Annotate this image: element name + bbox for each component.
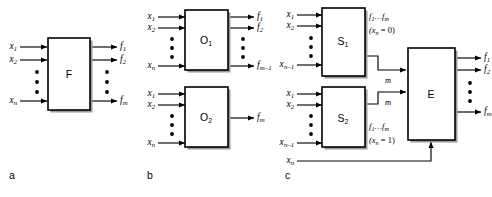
output-label-f2-o1: f2 — [257, 23, 263, 33]
ellipsis-dots — [35, 36, 472, 136]
input-label-x2-o2: x2 — [147, 100, 155, 110]
input-label-x2-a: x2 — [9, 55, 17, 65]
output-label-f2-a: f2 — [120, 55, 126, 65]
bus-label-top: f1…fm — [369, 12, 389, 21]
input-label-x1-o1: x1 — [147, 12, 155, 22]
bus-width-label-bottom: m — [385, 98, 391, 107]
output-label-f1-o1: f1 — [257, 12, 263, 22]
diagram-vector-layer — [0, 0, 492, 197]
input-label-xn-1-s2: xn–1 — [280, 138, 294, 148]
output-label-fm-e: fm — [484, 107, 492, 117]
block-diagram-figure: x1 x2 xn F f1 f2 fm a x1 x2 xn O1 f1 f2 … — [0, 0, 492, 197]
input-label-x1-o2: x1 — [147, 89, 155, 99]
box-label-S2: S2 — [338, 113, 349, 124]
output-label-f1-a: f1 — [120, 42, 126, 52]
input-label-xn-o1: xn — [147, 61, 155, 71]
input-label-x1-s2: x1 — [286, 89, 294, 99]
bus-condition-xn-zero: (xn = 0) — [369, 26, 395, 35]
input-label-x2-s2: x2 — [286, 100, 294, 110]
bus-label-bottom: f1…fm — [369, 122, 389, 131]
input-label-x1-s1: x1 — [286, 10, 294, 20]
input-label-xn-control: xn — [286, 156, 294, 166]
panel-letter-b: b — [147, 170, 153, 181]
input-label-x2-s1: x2 — [286, 21, 294, 31]
panel-letter-c: c — [285, 170, 290, 181]
output-label-f2-e: f2 — [484, 65, 490, 75]
box-shadows — [51, 11, 458, 150]
output-label-fm-1-o1: fm–1 — [257, 61, 271, 71]
box-label-O1: O1 — [200, 35, 212, 46]
input-label-xn-a: xn — [9, 96, 17, 106]
bus-width-label-top: m — [385, 76, 391, 85]
output-label-f1-e: f1 — [484, 53, 490, 63]
bus-s1-to-e — [365, 56, 406, 70]
box-label-O2: O2 — [200, 112, 212, 123]
panel-letter-a: a — [9, 170, 15, 181]
input-label-xn-1-s1: xn–1 — [280, 60, 294, 70]
input-label-x1-a: x1 — [9, 42, 17, 52]
box-label-E: E — [427, 89, 434, 100]
box-label-S1: S1 — [338, 36, 349, 47]
output-label-fm-o2: fm — [257, 113, 265, 123]
input-label-x2-o1: x2 — [147, 23, 155, 33]
box-label-F: F — [66, 69, 72, 80]
input-label-xn-o2: xn — [147, 138, 155, 148]
bus-condition-xn-one: (xn = 1) — [369, 136, 395, 145]
output-label-fm-a: fm — [120, 96, 128, 106]
